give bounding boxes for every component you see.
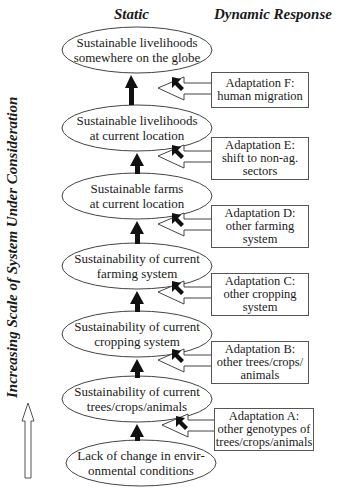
adaptation-a-box: Adaptation A: other genotypes of trees/c… — [214, 408, 314, 451]
thick-up-arrow-icon — [130, 291, 144, 312]
adaptation-b-box: Adaptation B: other trees/crops/ animals — [211, 341, 309, 384]
level-7-label: Sustainable livelihoods somewhere on the… — [74, 35, 201, 65]
hollow-left-arrow-icon — [158, 77, 213, 100]
adaptation-e-box: Adaptation E: shift to non-ag. sectors — [211, 137, 309, 180]
level-1-label: Lack of change in envir- onmental condit… — [77, 448, 205, 478]
diagram: Static Dynamic Response Increasing Scale… — [0, 0, 351, 499]
adaptation-f-box: Adaptation F: human migration — [211, 72, 309, 108]
level-5-label: Sustainable farms at current location — [90, 181, 185, 211]
thick-up-arrow-icon — [130, 221, 144, 244]
level-2-label: Sustainability of current trees/crops/an… — [74, 384, 200, 414]
thick-up-arrow-icon — [130, 153, 144, 174]
level-6-label: Sustainable livelihoods at current locat… — [77, 113, 198, 143]
thick-up-arrow-icon — [125, 75, 138, 105]
level-4-label: Sustainability of current farming system — [74, 251, 200, 281]
adaptation-c-box: Adaptation C: other cropping system — [211, 273, 309, 316]
adaptation-d-box: Adaptation D: other farming system — [211, 205, 309, 248]
header-dynamic-response: Dynamic Response — [214, 6, 332, 23]
level-3-label: Sustainability of current cropping syste… — [74, 319, 200, 349]
thick-up-arrow-icon — [130, 359, 144, 378]
thick-up-arrow-icon — [130, 424, 144, 441]
hollow-up-arrow-icon — [22, 403, 34, 478]
axis-label: Increasing Scale of System Under Conside… — [4, 97, 21, 398]
header-static: Static — [114, 6, 149, 23]
